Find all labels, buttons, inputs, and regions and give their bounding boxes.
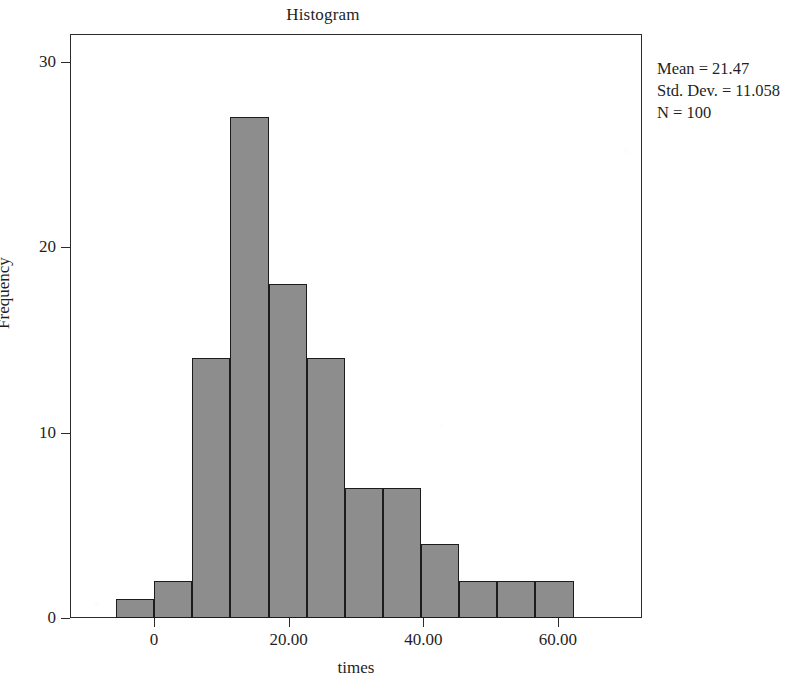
histogram-bar	[535, 581, 573, 618]
histogram-bar	[192, 358, 230, 618]
histogram-bar	[421, 544, 459, 618]
y-axis-tick-label: 20	[39, 237, 56, 257]
statistics-annotation: Mean = 21.47 Std. Dev. = 11.058 N = 100	[657, 58, 780, 124]
x-axis-tick	[558, 618, 559, 627]
y-axis-tick: 0	[61, 618, 70, 619]
x-axis-tick	[289, 618, 290, 627]
y-axis-tick-label: 0	[48, 608, 57, 628]
y-axis-tick-label: 30	[39, 52, 56, 72]
histogram-bar	[497, 581, 535, 618]
x-axis-tick	[154, 618, 155, 627]
x-axis-tick-label: 0	[150, 630, 159, 650]
y-axis-tick: 20	[61, 247, 70, 248]
std-dev-label: Std. Dev. = 11.058	[657, 80, 780, 102]
x-axis-tick-label: 20.00	[270, 630, 308, 650]
plot-area: 0102030020.0040.0060.00	[70, 34, 642, 618]
histogram-bar	[307, 358, 345, 618]
x-axis-title: times	[70, 658, 642, 678]
histogram-bar	[383, 488, 421, 618]
histogram-bar	[230, 117, 268, 618]
histogram-bar	[154, 581, 192, 618]
y-axis-tick: 10	[61, 433, 70, 434]
histogram-bar	[116, 599, 154, 618]
x-axis-tick-label: 40.00	[404, 630, 442, 650]
y-axis-tick-label: 10	[39, 423, 56, 443]
histogram-chart: Histogram 0102030020.0040.0060.00 Freque…	[0, 0, 803, 686]
sample-size-label: N = 100	[657, 102, 780, 124]
histogram-bar	[345, 488, 383, 618]
chart-title: Histogram	[0, 5, 646, 25]
x-axis-tick	[423, 618, 424, 627]
histogram-bar	[269, 284, 307, 618]
x-axis-tick-label: 60.00	[539, 630, 577, 650]
y-axis-tick: 30	[61, 62, 70, 63]
histogram-bar	[459, 581, 497, 618]
y-axis-title: Frequency	[0, 257, 14, 329]
mean-label: Mean = 21.47	[657, 58, 780, 80]
